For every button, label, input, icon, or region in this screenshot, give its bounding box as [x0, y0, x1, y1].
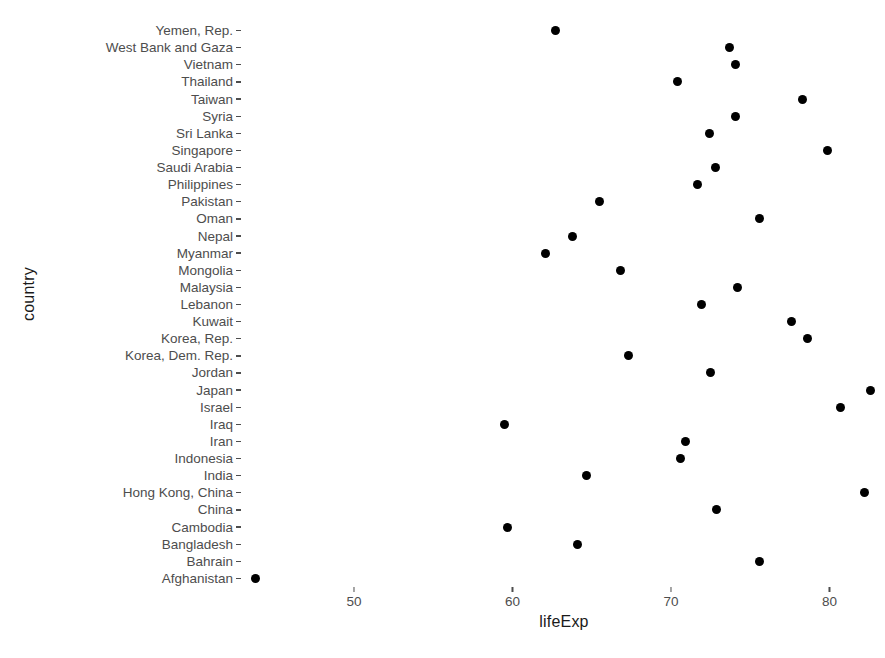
- data-point: [616, 266, 625, 275]
- y-axis-tick-label: Singapore: [171, 143, 233, 158]
- y-axis-tick-label: Nepal: [198, 229, 233, 244]
- y-axis-tick-label: Malaysia: [180, 280, 233, 295]
- y-axis-tick-iran: Iran: [210, 433, 243, 450]
- y-axis-tick-mark: [236, 544, 241, 545]
- x-axis-tick-50: 50: [346, 587, 361, 609]
- y-axis-tick-mark: [236, 355, 241, 356]
- x-axis-tick-60: 60: [505, 587, 520, 609]
- y-axis-tick-mark: [236, 235, 241, 236]
- y-axis-tick-mark: [236, 509, 241, 510]
- x-axis-tick-label: 70: [663, 594, 678, 609]
- y-axis-tick-israel: Israel: [200, 399, 243, 416]
- y-axis-tick-label: Indonesia: [174, 451, 233, 466]
- y-axis-tick-label: Cambodia: [171, 520, 233, 535]
- data-point: [705, 129, 714, 138]
- y-axis-tick-indonesia: Indonesia: [174, 450, 243, 467]
- y-axis-tick-lebanon: Lebanon: [180, 296, 243, 313]
- data-point: [755, 214, 764, 223]
- y-axis-tick-jordan: Jordan: [192, 364, 243, 381]
- x-axis-tick-mark: [353, 587, 354, 592]
- data-point: [595, 197, 604, 206]
- y-axis-tick-india: India: [204, 467, 243, 484]
- y-axis-title-text: country: [20, 267, 38, 321]
- data-point: [731, 112, 740, 121]
- y-axis-tick-mark: [236, 116, 241, 117]
- y-axis-tick-label: Pakistan: [181, 194, 233, 209]
- y-axis-tick-taiwan: Taiwan: [191, 91, 243, 108]
- y-axis-tick-label: Yemen, Rep.: [155, 23, 233, 38]
- scatter-plot-figure: country Yemen, Rep.West Bank and GazaVie…: [0, 0, 885, 658]
- y-axis-tick-label: Mongolia: [178, 263, 233, 278]
- y-axis-tick-mark: [236, 458, 241, 459]
- data-point: [251, 574, 260, 583]
- y-axis-tick-yemen-rep: Yemen, Rep.: [155, 22, 243, 39]
- data-point: [798, 95, 807, 104]
- data-point: [836, 403, 845, 412]
- y-axis-tick-mark: [236, 561, 241, 562]
- y-axis-tick-label: Syria: [202, 109, 233, 124]
- y-axis-tick-mark: [236, 424, 241, 425]
- y-axis-tick-korea-rep: Korea, Rep.: [161, 330, 243, 347]
- y-axis-tick-mark: [236, 492, 241, 493]
- data-point: [731, 60, 740, 69]
- y-axis-tick-label: China: [198, 502, 233, 517]
- y-axis-tick-mark: [236, 407, 241, 408]
- y-axis-tick-mark: [236, 321, 241, 322]
- y-axis-tick-oman: Oman: [196, 210, 243, 227]
- data-point: [500, 420, 509, 429]
- data-point: [733, 283, 742, 292]
- data-point: [693, 180, 702, 189]
- x-axis-tick-70: 70: [663, 587, 678, 609]
- y-axis-tick-korea-dem-rep: Korea, Dem. Rep.: [125, 347, 243, 364]
- y-axis-tick-thailand: Thailand: [181, 73, 243, 90]
- y-axis-tick-mark: [236, 81, 241, 82]
- y-axis-tick-kuwait: Kuwait: [192, 313, 243, 330]
- y-axis-tick-mark: [236, 218, 241, 219]
- x-axis-tick-mark: [829, 587, 830, 592]
- data-point: [503, 523, 512, 532]
- y-axis-tick-bangladesh: Bangladesh: [162, 536, 243, 553]
- y-axis-tick-mark: [236, 133, 241, 134]
- x-axis-tick-label: 80: [822, 594, 837, 609]
- y-axis-tick-mark: [236, 441, 241, 442]
- y-axis-tick-mark: [236, 201, 241, 202]
- y-axis-tick-philippines: Philippines: [168, 176, 243, 193]
- data-point: [823, 146, 832, 155]
- y-axis-tick-singapore: Singapore: [171, 142, 243, 159]
- y-axis-tick-mark: [236, 184, 241, 185]
- y-axis-tick-mark: [236, 150, 241, 151]
- y-axis-tick-mark: [236, 167, 241, 168]
- y-axis-tick-japan: Japan: [196, 382, 243, 399]
- y-axis-tick-mark: [236, 47, 241, 48]
- data-point: [573, 540, 582, 549]
- data-point: [803, 334, 812, 343]
- y-axis-tick-labels: Yemen, Rep.West Bank and GazaVietnamThai…: [58, 22, 243, 587]
- y-axis-tick-saudi-arabia: Saudi Arabia: [156, 159, 243, 176]
- x-axis-tick-label: 60: [505, 594, 520, 609]
- x-axis-tick-mark: [670, 587, 671, 592]
- y-axis-tick-label: India: [204, 468, 233, 483]
- y-axis-tick-label: Korea, Rep.: [161, 331, 233, 346]
- y-axis-tick-label: Iraq: [210, 417, 233, 432]
- y-axis-tick-label: Oman: [196, 211, 233, 226]
- data-point: [676, 454, 685, 463]
- data-point: [787, 317, 796, 326]
- y-axis-tick-myanmar: Myanmar: [177, 245, 243, 262]
- y-axis-tick-label: Bangladesh: [162, 537, 233, 552]
- y-axis-tick-mark: [236, 252, 241, 253]
- y-axis-tick-label: Kuwait: [192, 314, 233, 329]
- y-axis-tick-bahrain: Bahrain: [186, 553, 243, 570]
- y-axis-tick-mark: [236, 338, 241, 339]
- y-axis-tick-syria: Syria: [202, 108, 243, 125]
- y-axis-tick-label: Iran: [210, 434, 233, 449]
- plot-panel: [243, 22, 885, 587]
- data-point: [706, 368, 715, 377]
- data-point: [551, 26, 560, 35]
- y-axis-tick-label: Japan: [196, 383, 233, 398]
- data-point: [582, 471, 591, 480]
- data-point: [711, 163, 720, 172]
- data-point: [755, 557, 764, 566]
- x-axis-title: lifeExp: [243, 613, 885, 631]
- y-axis-tick-mark: [236, 578, 241, 579]
- x-axis-tick-labels: 50607080: [243, 587, 885, 615]
